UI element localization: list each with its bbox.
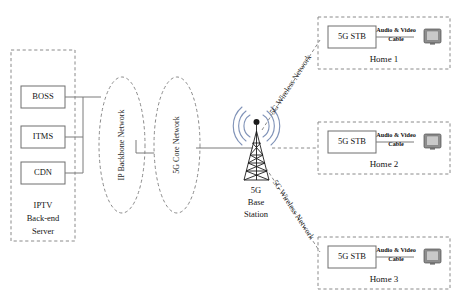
wireless-link-upper: 5G Wireless Network [262, 40, 320, 130]
cdn-node-label: CDN [34, 167, 52, 177]
iptv-group-label-line-1: IPTV [34, 200, 54, 210]
5g-core-network-cloud[interactable]: 5G Core Network [154, 77, 200, 213]
home-2-cable-label-line-2: Cable [388, 140, 404, 147]
wireless-link-lower-label: 5G Wireless Network [271, 178, 316, 241]
home-2-title: Home 2 [370, 159, 399, 169]
wireless-link-lower: 5G Wireless Network [266, 168, 320, 252]
ip-backbone-network-cloud[interactable]: IP Backbone Network [99, 77, 145, 213]
home-3-title: Home 3 [370, 274, 399, 284]
itms-node-label: ITMS [33, 131, 54, 141]
boss-node-label: BOSS [32, 91, 54, 101]
home-2-television-icon [424, 134, 441, 150]
network-architecture-diagram: BOSS ITMS CDN IPTV Back-end Server IP Ba… [0, 0, 460, 298]
home-2-stb-label: 5G STB [338, 136, 366, 146]
5g-base-station[interactable]: 5G Base Station [233, 107, 280, 219]
home-3-stb-label: 5G STB [338, 251, 366, 261]
iptv-group-label-line-2: Back-end [27, 213, 60, 223]
home-2[interactable]: 5G STB Audio & Video Cable Home 2 [318, 122, 450, 174]
signal-arcs-left [233, 107, 250, 145]
home-3-cable-label-line-2: Cable [388, 255, 404, 262]
home-2-cable-label-line-1: Audio & Video [376, 131, 416, 138]
iptv-group-label-line-3: Server [32, 226, 54, 236]
ip-backbone-network-label: IP Backbone Network [117, 110, 126, 181]
home-1-cable-label-line-2: Cable [388, 35, 404, 42]
home-1-stb-label: 5G STB [338, 31, 366, 41]
home-3-cable-label-line-1: Audio & Video [376, 246, 416, 253]
base-station-label-line-1: 5G [251, 185, 261, 195]
5g-core-network-label: 5G Core Network [172, 116, 181, 173]
cell-tower-icon [244, 131, 269, 180]
home-1[interactable]: 5G STB Audio & Video Cable Home 1 [318, 17, 450, 69]
base-station-label-line-2: Base [248, 197, 265, 207]
home-1-television-icon [424, 29, 441, 45]
home-1-cable-label-line-1: Audio & Video [376, 26, 416, 33]
home-1-title: Home 1 [370, 54, 399, 64]
home-3-television-icon [424, 249, 441, 265]
iptv-backend-server-group: BOSS ITMS CDN IPTV Back-end Server [11, 50, 75, 241]
antenna-tip-icon [254, 119, 260, 125]
backend-to-backbone-connectors [65, 97, 101, 173]
home-3[interactable]: 5G STB Audio & Video Cable Home 3 [318, 237, 450, 289]
base-station-label-line-3: Station [244, 209, 269, 219]
wireless-link-upper-label: 5G Wireless Network [268, 53, 313, 116]
